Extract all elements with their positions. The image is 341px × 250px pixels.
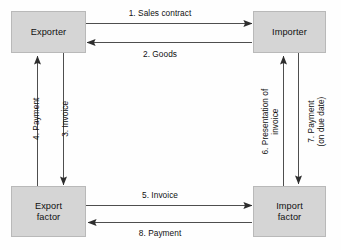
- edge-label-3-invoice: 3. Invoice: [61, 91, 71, 147]
- node-export-factor[interactable]: Export factor: [11, 186, 86, 237]
- edge-label-4-payment: 4. Payment: [32, 89, 42, 149]
- edge-label-6-presentation-of-invoice: 6. Presentation of invoice: [261, 78, 280, 166]
- node-exporter[interactable]: Exporter: [11, 11, 86, 53]
- node-import-factor-label: Import factor: [276, 201, 303, 223]
- node-importer[interactable]: Importer: [253, 11, 326, 53]
- factoring-flow-diagram: Exporter Importer Export factor Import f…: [0, 0, 341, 250]
- node-exporter-label: Exporter: [31, 27, 67, 38]
- node-export-factor-label: Export factor: [35, 201, 62, 223]
- edge-label-1-sales-contract: 1. Sales contract: [129, 9, 192, 19]
- edge-label-7-payment-on-due-date: 7. Payment (on due date): [307, 82, 326, 162]
- edge-label-5-invoice: 5. Invoice: [142, 191, 178, 201]
- edge-label-2-goods: 2. Goods: [143, 50, 177, 60]
- node-importer-label: Importer: [272, 27, 307, 38]
- node-import-factor[interactable]: Import factor: [253, 186, 326, 237]
- edge-label-8-payment: 8. Payment: [139, 229, 181, 239]
